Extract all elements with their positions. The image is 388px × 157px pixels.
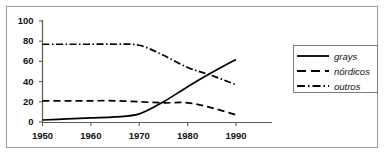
series-line-outros [43,44,237,85]
legend-label-grays: grays [334,51,357,62]
data-series-layer [43,44,237,120]
y-tick-label: 100 [8,15,34,26]
legend-label-nordicos: nórdicos [334,66,370,77]
legend-item-outros: outros [294,78,379,94]
y-tick-label: 0 [8,116,34,127]
series-line-grays [43,59,237,120]
y-tick-label: 80 [8,35,34,46]
legend-swatch-solid [294,50,332,62]
axis-lines [39,20,272,126]
chart-figure: 100806040200 19501960197019801990 grays … [0,0,388,157]
x-tick-label: 1960 [74,130,108,141]
y-tick-label: 40 [8,76,34,87]
y-tick-label: 20 [8,96,34,107]
legend-swatch-dashed [294,65,332,77]
legend-label-outros: outros [334,81,360,92]
series-line-nordicos [43,101,237,115]
legend-item-nordicos: nórdicos [294,63,379,79]
y-tick-label: 60 [8,55,34,66]
legend-item-grays: grays [294,48,379,64]
x-tick-label: 1990 [219,130,253,141]
legend-swatch-dashdot [294,80,332,92]
chart-legend: grays nórdicos outros [293,45,378,93]
x-tick-label: 1950 [26,130,60,141]
x-tick-label: 1980 [171,130,205,141]
x-tick-label: 1970 [122,130,156,141]
